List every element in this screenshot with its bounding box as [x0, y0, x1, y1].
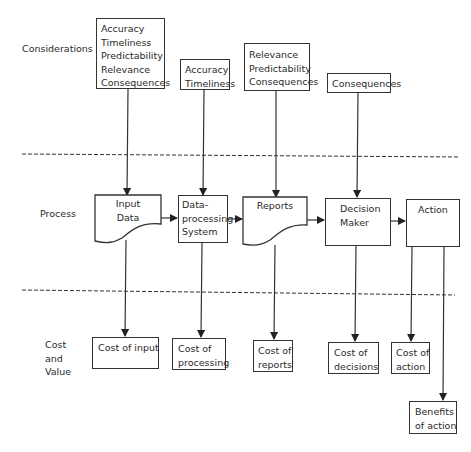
- consideration-box-processing: Accuracy Timeliness: [180, 59, 230, 90]
- consideration-box-input: Accuracy Timeliness Predictability Relev…: [96, 18, 165, 89]
- outcome-cost-of-reports: Cost of reports: [253, 340, 293, 372]
- process-data-processing-system: Data- processing System: [178, 195, 228, 243]
- row-label-considerations: Considerations: [22, 42, 93, 55]
- outcome-cost-of-action: Cost of action: [391, 342, 430, 374]
- outcome-cost-of-decisions: Cost of decisions: [328, 342, 379, 374]
- outcome-cost-of-input: Cost of input: [92, 337, 159, 369]
- separator-top: [22, 154, 460, 157]
- process-action: Action: [406, 199, 460, 247]
- separator-bottom: [22, 290, 455, 295]
- row-label-process: Process: [40, 207, 76, 220]
- row-label-cost-and-value: Cost and Value: [45, 338, 71, 379]
- connector-layer: [0, 0, 471, 452]
- consideration-box-reports: Relevance Predictability Consequences: [244, 43, 310, 91]
- outcome-cost-of-processing: Cost of processing: [172, 338, 226, 370]
- process-input-data: Input Data: [95, 197, 161, 224]
- process-reports: Reports: [243, 199, 307, 213]
- process-decision-maker: Decision Maker: [325, 198, 391, 246]
- outcome-benefits-of-action: Benefits of action: [409, 401, 457, 434]
- consideration-box-decision: Consequences: [327, 73, 391, 93]
